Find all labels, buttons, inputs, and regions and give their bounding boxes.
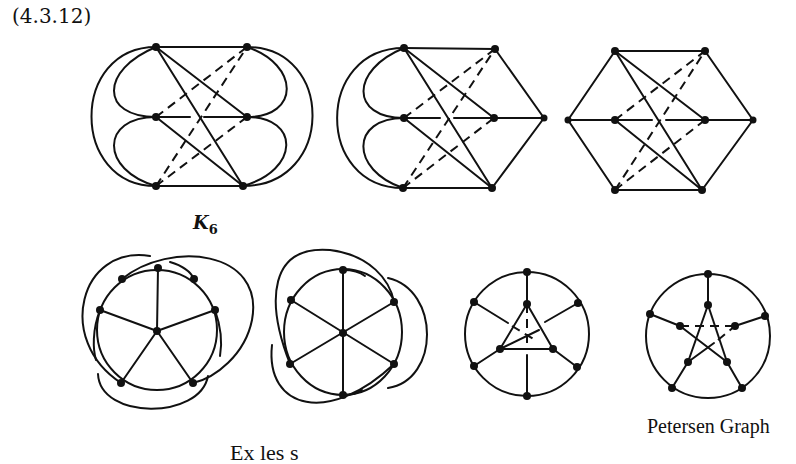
k6-label-subscript: 6 — [209, 222, 218, 237]
k6-drawing-1 — [92, 43, 313, 190]
k6-label: K6 — [193, 212, 218, 237]
wheel-like-1 — [83, 255, 254, 409]
cutoff-caption: Ex les s — [230, 440, 298, 464]
petersen-graph — [646, 270, 770, 398]
wheel-like-2 — [271, 250, 427, 403]
triangle-in-circle — [465, 268, 589, 400]
k6-drawing-2 — [337, 44, 547, 192]
k6-label-base: K — [193, 212, 209, 233]
k6-drawing-3 — [565, 47, 757, 194]
petersen-graph-label: Petersen Graph — [647, 415, 770, 438]
